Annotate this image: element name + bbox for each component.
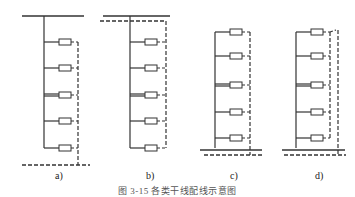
wiring-diagram xyxy=(0,0,355,197)
panel-d-diagram xyxy=(282,29,346,155)
figure-caption: 图 3-15 各类干线配线示意图 xyxy=(0,184,355,197)
panel-a-label: a) xyxy=(55,170,63,181)
panel-d-label: d) xyxy=(315,170,323,181)
panel-b-diagram xyxy=(100,16,170,151)
panel-b-label: b) xyxy=(146,170,154,181)
panel-c-label: c) xyxy=(230,170,238,181)
panel-a-diagram xyxy=(22,16,90,165)
panel-c-diagram xyxy=(200,29,262,155)
